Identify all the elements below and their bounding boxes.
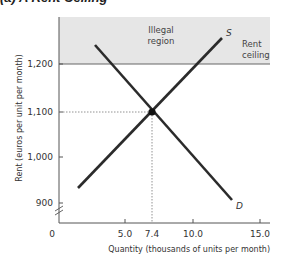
- supply-label: S: [226, 28, 232, 38]
- y-ticks: [59, 64, 63, 203]
- x-axis-title: Quantity (thousands of units per month): [108, 245, 270, 254]
- y-tick-1100: 1,100: [27, 107, 53, 117]
- y-axis-title: Rent (euros per unit per month): [15, 54, 24, 182]
- illegal-region-label-line2: region: [148, 36, 175, 46]
- rent-ceiling-label-line1: Rent: [242, 39, 262, 49]
- y-tick-1000: 1,000: [27, 152, 53, 162]
- x-tick-5: 5.0: [118, 229, 133, 239]
- x-ticks: [125, 219, 260, 223]
- demand-curve: [95, 45, 232, 200]
- x-tick-7-4: 7.4: [145, 229, 160, 239]
- illegal-region-label-line1: Illegal: [148, 25, 173, 35]
- demand-label: D: [236, 201, 243, 211]
- rent-ceiling-label-line2: ceiling: [242, 50, 270, 60]
- x-tick-10: 10.0: [183, 229, 203, 239]
- chart-canvas: 1,200 1,100 1,000 900 0 5.0 7.4 10.0 15.…: [0, 0, 288, 263]
- x-tick-15: 15.0: [250, 229, 270, 239]
- y-tick-900: 900: [36, 198, 53, 208]
- equilibrium-point: [148, 108, 155, 115]
- y-tick-1200: 1,200: [27, 59, 53, 69]
- x-tick-0: 0: [49, 229, 55, 239]
